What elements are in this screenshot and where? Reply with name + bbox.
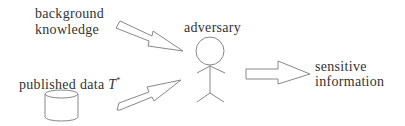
background-line1: background [35,6,104,21]
published-data-label: published data T* [19,73,121,92]
arrow-background-to-adversary [116,21,183,51]
background-knowledge-label: background knowledge [35,6,104,37]
sensitive-line2: information [315,74,384,89]
arrow-adversary-to-sensitive [246,61,310,84]
database-icon [45,90,78,121]
published-text: published data [19,77,108,92]
published-sup: * [116,76,120,85]
sensitive-information-label: sensitive information [315,59,384,89]
arrow-published-to-adversary [117,80,181,110]
background-line2: knowledge [35,22,104,37]
sensitive-line1: sensitive [315,59,384,74]
adversary-figure-icon [196,37,225,102]
adversary-label: adversary [184,20,241,35]
